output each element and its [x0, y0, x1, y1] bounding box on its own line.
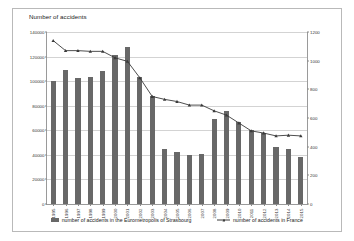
legend-item-strasbourg: number of accidents in the Eurometropoli… — [51, 217, 191, 223]
x-axis-tick-mark — [239, 204, 240, 206]
x-axis-tick-mark — [66, 204, 67, 206]
x-axis-tick-mark — [53, 204, 54, 206]
y-axis-left-tick-label: 60000 — [32, 128, 44, 133]
y-axis-left-tick-label: 140000 — [30, 30, 45, 35]
y-axis-left-tick-label: 80000 — [32, 103, 44, 108]
y-axis-right-tick-label: 600 — [310, 116, 317, 121]
x-axis-tick-mark — [214, 204, 215, 206]
x-axis-tick-mark — [264, 204, 265, 206]
chart-legend: number of accidents in the Eurometropoli… — [13, 217, 341, 223]
y-axis-right-tick-mark — [307, 32, 309, 33]
y-axis-right-tick-label: 400 — [310, 144, 317, 149]
y-axis-right-tick-mark — [307, 175, 309, 176]
legend-label-france: number of accidents in France — [233, 217, 303, 223]
chart-axis-title: Number of accidents — [29, 13, 87, 20]
x-axis-tick-mark — [227, 204, 228, 206]
y-axis-right-tick-mark — [307, 89, 309, 90]
y-axis-left-tick-label: 40000 — [32, 152, 44, 157]
x-axis-tick-mark — [288, 204, 289, 206]
bar-swatch-icon — [51, 218, 59, 222]
x-axis-tick-mark — [152, 204, 153, 206]
x-axis-tick-mark — [189, 204, 190, 206]
y-axis-left-tick-label: 120000 — [30, 54, 45, 59]
legend-item-france: number of accidents in France — [217, 217, 302, 223]
y-axis-left-tick-label: 100000 — [30, 79, 45, 84]
x-axis-tick-mark — [115, 204, 116, 206]
x-axis-tick-mark — [127, 204, 128, 206]
y-axis-right-tick-mark — [307, 118, 309, 119]
x-axis-tick-mark — [251, 204, 252, 206]
chart-container: Number of accidents 02000040000600008000… — [12, 8, 342, 232]
x-axis-tick-mark — [78, 204, 79, 206]
y-axis-right-tick-mark — [307, 60, 309, 61]
x-axis-categories: 1995199619971998199920002001200220032004… — [47, 32, 307, 204]
x-axis-tick-mark — [301, 204, 302, 206]
line-marker-icon — [217, 218, 230, 223]
x-axis-tick-mark — [177, 204, 178, 206]
y-axis-right-tick-label: 1000 — [310, 58, 320, 63]
y-axis-right-tick-label: 800 — [310, 87, 317, 92]
y-axis-right-tick-label: 1200 — [310, 30, 320, 35]
x-axis-tick-mark — [165, 204, 166, 206]
y-axis-right-tick-label: 0 — [310, 202, 312, 207]
x-axis-tick-mark — [202, 204, 203, 206]
y-axis-right-tick-mark — [307, 204, 309, 205]
x-axis-tick-mark — [276, 204, 277, 206]
x-axis-tick-mark — [103, 204, 104, 206]
x-axis-tick-mark — [90, 204, 91, 206]
x-axis-tick-mark — [140, 204, 141, 206]
plot-area: 020000400006000080000100000120000140000 … — [46, 32, 308, 205]
legend-label-strasbourg: number of accidents in the Eurometropoli… — [62, 217, 192, 223]
y-axis-right-tick-mark — [307, 146, 309, 147]
y-axis-right-tick-label: 200 — [310, 173, 317, 178]
y-axis-left-tick-label: 20000 — [32, 177, 44, 182]
